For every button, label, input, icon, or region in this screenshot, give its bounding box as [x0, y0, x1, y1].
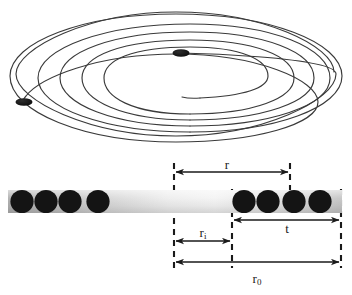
dimension-label-r0: r0 — [253, 272, 262, 285]
dimension-label-ri: ri — [200, 226, 207, 239]
conductor-dot — [256, 190, 279, 213]
conductor-dot — [308, 190, 331, 213]
dimension-arrows — [176, 172, 339, 262]
outer-terminal-dot — [16, 98, 33, 106]
conductor-dot — [232, 190, 255, 213]
dimension-label-r: r — [225, 158, 229, 171]
dashed-construction-lines — [174, 163, 341, 268]
conductor-dot — [10, 190, 33, 213]
spiral-path-3 — [60, 32, 314, 126]
dimension-label-t: t — [285, 222, 289, 235]
conductor-dot — [282, 190, 305, 213]
spiral-inner-lead — [182, 97, 200, 98]
spiral-coil-group — [10, 12, 342, 142]
conductor-dot — [58, 190, 81, 213]
inner-terminal-dot — [173, 49, 190, 57]
conductor-dot — [86, 190, 109, 213]
conductor-dot — [34, 190, 57, 213]
figure-canvas — [0, 0, 352, 295]
spiral-coil-figure: r ri t r0 — [0, 0, 352, 295]
